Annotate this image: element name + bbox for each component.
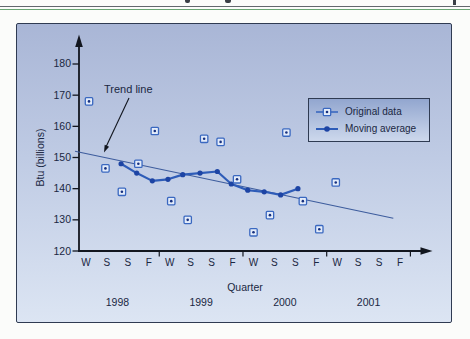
x-tick-label-quarter: W: [77, 256, 95, 269]
x-year-label: 1999: [179, 296, 223, 309]
x-year-label: 2000: [263, 296, 307, 309]
x-tick-label-quarter: S: [203, 256, 221, 269]
x-tick-label-quarter: F: [140, 256, 158, 269]
dot-line-marker-icon: [315, 123, 339, 135]
x-tick-label-quarter: S: [370, 256, 388, 269]
legend-label-original-data: Original data: [345, 106, 402, 117]
y-tick-label: 130: [35, 213, 71, 226]
chart-panel: [16, 23, 452, 323]
x-tick-label-quarter: F: [391, 256, 409, 269]
x-tick-label-quarter: S: [98, 256, 116, 269]
legend-label-moving-average: Moving average: [345, 123, 416, 134]
text-fragment: [185, 0, 190, 3]
x-tick-label-quarter: W: [161, 256, 179, 269]
x-tick-label-quarter: F: [307, 256, 325, 269]
y-tick-label: 150: [35, 151, 71, 164]
x-tick-label-quarter: S: [286, 256, 304, 269]
trend-line-annotation: Trend line: [104, 83, 153, 96]
x-tick-label-quarter: W: [328, 256, 346, 269]
x-tick-label-quarter: S: [119, 256, 137, 269]
y-tick-label: 180: [35, 57, 71, 70]
x-tick-label-quarter: S: [182, 256, 200, 269]
x-tick-label-quarter: S: [349, 256, 367, 269]
y-tick-label: 170: [35, 89, 71, 102]
y-tick-label: 140: [35, 182, 71, 195]
cropped-page-header: [0, 0, 470, 12]
horizontal-rule-gray: [0, 6, 470, 7]
x-year-label: 2001: [347, 296, 391, 309]
x-tick-label-quarter: F: [224, 256, 242, 269]
y-tick-label: 120: [35, 245, 71, 258]
horizontal-rule-green: [0, 9, 470, 11]
text-fragment: [453, 0, 456, 5]
legend-item-original-data: Original data: [315, 104, 423, 119]
boxed-square-marker-icon: [315, 106, 339, 118]
x-year-label: 1998: [95, 296, 139, 309]
y-tick-label: 160: [35, 120, 71, 133]
legend-item-moving-average: Moving average: [315, 121, 423, 136]
x-axis-title: Quarter: [203, 281, 287, 294]
legend: Original data Moving average: [308, 98, 430, 142]
x-tick-label-quarter: S: [265, 256, 283, 269]
x-tick-label-quarter: W: [244, 256, 262, 269]
text-fragment: [225, 0, 231, 3]
page: Btu (billions) Quarter Trend line Origin…: [0, 0, 470, 339]
